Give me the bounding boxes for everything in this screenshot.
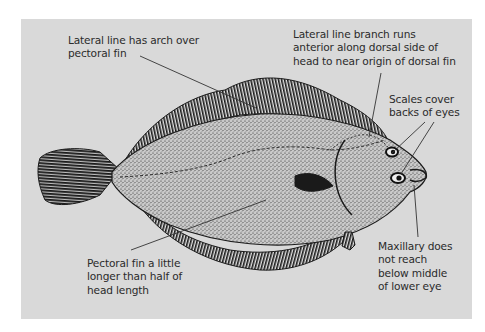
label-scales-cover-eyes: Scales cover backs of eyes <box>389 93 460 120</box>
label-pectoral-fin: Pectoral fin a little longer than half o… <box>87 257 182 297</box>
label-maxillary: Maxillary does not reach below middle of… <box>378 240 452 294</box>
caudal-fin <box>38 149 120 205</box>
label-lateral-line-arch: Lateral line has arch over pectoral fin <box>68 34 199 61</box>
pelvic-fin <box>342 232 355 250</box>
label-lateral-line-branch: Lateral line branch runs anterior along … <box>293 28 456 68</box>
